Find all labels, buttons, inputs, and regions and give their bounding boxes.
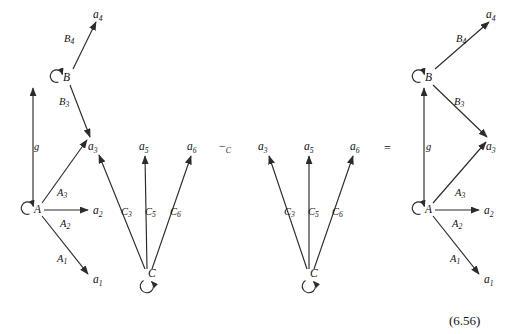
edge-label-C6: C6 (170, 206, 181, 219)
right-diagram: B A a4 a3 a2 a1 B4 B3 g A3 A2 A1 (412, 8, 495, 288)
equation-number: (6.56) (449, 313, 480, 328)
node-label-a1: a1 (93, 273, 103, 288)
node-label-a2: a2 (93, 204, 103, 219)
edge-B-a3 (70, 85, 90, 137)
node-label-C: C (148, 267, 156, 279)
self-loop-B-right (412, 70, 424, 82)
edge-label-A1: A1 (56, 253, 67, 266)
node-label-a5-middle: a5 (304, 140, 314, 155)
node-label-C-middle: C (310, 267, 318, 279)
edge-label-g: g (34, 141, 39, 152)
operator-equals: = (384, 141, 391, 155)
self-loop-B (50, 70, 62, 82)
edge-B-a4 (73, 22, 96, 69)
edge-label-A1-right: A1 (449, 253, 460, 266)
node-label-a6-middle: a6 (350, 140, 360, 155)
edge-label-A3-right: A3 (454, 187, 465, 200)
left-diagram: B A C a4 a3 a5 a6 a2 a1 B4 B3 g (21, 8, 196, 293)
node-label-a4: a4 (93, 8, 103, 23)
node-label-a3-middle: a3 (258, 140, 268, 155)
edge-label-g-right: g (426, 141, 431, 152)
node-label-a6: a6 (187, 140, 197, 155)
edge-label-B3: B3 (59, 96, 69, 109)
node-label-a2-right: a2 (484, 204, 494, 219)
node-label-a5: a5 (139, 140, 149, 155)
edge-B-a3-right (433, 85, 487, 137)
node-label-a3: a3 (88, 140, 98, 155)
node-label-a1-right: a1 (484, 273, 494, 288)
figure-canvas: B A C a4 a3 a5 a6 a2 a1 B4 B3 g (0, 0, 513, 334)
self-loop-A (21, 202, 33, 214)
operator-minus-c: −C (219, 139, 232, 155)
edge-label-B4: B4 (64, 33, 74, 46)
edge-label-C6-middle: C6 (332, 206, 343, 219)
node-label-A-right: A (424, 203, 433, 215)
node-label-A: A (33, 203, 42, 215)
self-loop-C (140, 281, 153, 293)
self-loop-C-middle (302, 281, 315, 293)
node-label-B: B (63, 71, 70, 83)
edge-label-C5-middle: C5 (308, 206, 319, 219)
self-loop-A-right (412, 202, 424, 214)
graph-diagram-svg: B A C a4 a3 a5 a6 a2 a1 B4 B3 g (0, 0, 513, 334)
node-label-a3-right: a3 (486, 140, 496, 155)
middle-diagram: C a3 a5 a6 C3 C5 C6 (258, 140, 360, 293)
edge-label-A2: A2 (59, 218, 70, 231)
node-label-a4-right: a4 (486, 8, 496, 23)
edge-label-A2-right: A2 (451, 218, 462, 231)
edge-label-C3: C3 (121, 206, 132, 219)
edge-label-A3: A3 (56, 187, 67, 200)
node-label-B-right: B (425, 71, 432, 83)
edge-label-B4-right: B4 (456, 33, 466, 46)
